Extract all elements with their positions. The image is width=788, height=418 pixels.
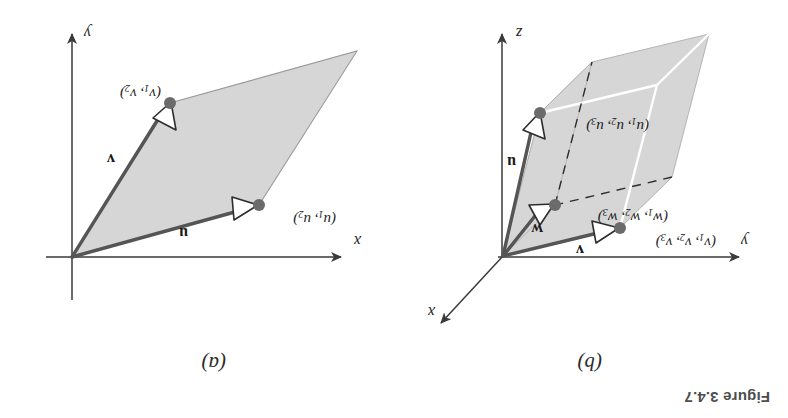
panel-b-vector-u-endpoint-dot — [534, 107, 546, 119]
panel-b-y-axis-label: y — [741, 232, 748, 250]
figure-page: Figure 3.4.7 (a) x — [0, 0, 788, 418]
panel-b-x-axis — [441, 256, 503, 323]
panel-b-vector-w-endpoint-dot — [549, 199, 561, 211]
panel-b-graphic — [0, 0, 788, 418]
panel-b-z-axis-label: z — [516, 24, 522, 42]
panel-b-point-v-coords: (v1, v2, v3) — [656, 232, 716, 251]
panel-b-label: (b) — [578, 351, 603, 376]
rotated-figure-canvas: Figure 3.4.7 (a) x — [0, 0, 788, 418]
panel-b-vector-v-label: v — [576, 241, 584, 259]
panel-b-vector-w-label: w — [531, 220, 543, 238]
panel-b-point-w-coords: (w1, w2, w3) — [598, 207, 668, 226]
panel-b-x-axis-label: x — [428, 303, 435, 321]
panel-b-vector-u-label: u — [507, 153, 516, 171]
panel-b-point-u-coords: (u1, u2, u3) — [586, 116, 649, 135]
